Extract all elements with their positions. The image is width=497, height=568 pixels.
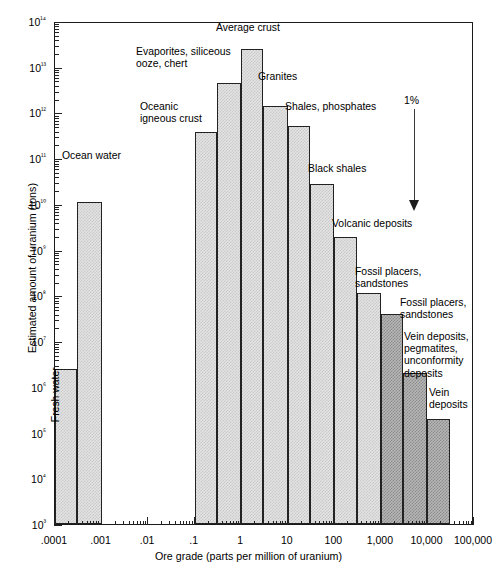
y-axis-minor-tick (54, 78, 59, 79)
bar-evaporites-siliceous (217, 83, 241, 524)
x-axis-label: 1,000 (367, 534, 393, 546)
x-axis-minor-tick (87, 521, 88, 526)
x-axis-minor-tick (419, 521, 420, 526)
x-axis-minor-tick (309, 521, 310, 526)
x-axis-minor-tick (449, 521, 450, 526)
x-axis-title: Ore grade (parts per million of uranium) (0, 550, 497, 562)
x-axis-label: .1 (189, 534, 198, 546)
y-axis-tick (54, 113, 62, 114)
x-axis-label: .01 (140, 534, 155, 546)
bar-annotation-granites: Granites (258, 71, 297, 83)
y-axis-minor-tick (54, 301, 59, 302)
x-axis-minor-tick (230, 521, 231, 526)
x-axis-minor-tick (133, 521, 134, 526)
x-axis-minor-tick (82, 521, 83, 526)
bar-annotation-volcanic-deposits: Volcanic deposits (332, 218, 412, 230)
y-axis-minor-tick (54, 223, 59, 224)
x-axis-minor-tick (222, 521, 223, 526)
x-axis-minor-tick (192, 521, 193, 526)
x-axis-minor-tick (115, 521, 116, 526)
y-axis-minor-tick (54, 92, 59, 93)
x-axis-label: 10,000 (410, 534, 442, 546)
x-axis-tick (54, 517, 55, 525)
bar-volcanic-deposits (334, 237, 356, 524)
x-axis-minor-tick (276, 521, 277, 526)
x-axis-minor-tick (145, 521, 146, 526)
x-axis-minor-tick (140, 521, 141, 526)
x-axis-minor-tick (90, 521, 91, 526)
x-axis-minor-tick (319, 521, 320, 526)
x-axis-minor-tick (175, 521, 176, 526)
y-axis-minor-tick (54, 173, 59, 174)
one-percent-annotation-label: 1% (404, 94, 419, 106)
x-axis-minor-tick (375, 521, 376, 526)
y-axis-minor-tick (54, 191, 59, 192)
x-axis-label: 100 (325, 534, 343, 546)
bar-vein (427, 419, 449, 524)
x-axis-minor-tick (208, 521, 209, 526)
y-axis-minor-tick (54, 169, 59, 170)
y-axis-minor-tick (54, 70, 59, 71)
x-axis-minor-tick (373, 521, 374, 526)
x-axis-minor-tick (394, 521, 395, 526)
y-axis-tick (54, 159, 62, 160)
x-axis-minor-tick (471, 521, 472, 526)
x-axis-minor-tick (273, 521, 274, 526)
x-axis-minor-tick (76, 521, 77, 526)
x-axis-minor-tick (280, 521, 281, 526)
y-axis-minor-tick (54, 121, 59, 122)
x-axis-minor-tick (402, 521, 403, 526)
x-axis-label: 1 (237, 534, 243, 546)
one-percent-arrow-head-icon (409, 200, 419, 211)
x-axis-minor-tick (93, 521, 94, 526)
y-axis-minor-tick (54, 253, 59, 254)
y-axis-minor-tick (54, 81, 59, 82)
bar-oceanic (195, 132, 217, 524)
x-axis-minor-tick (468, 521, 469, 526)
y-axis-minor-tick (54, 310, 59, 311)
x-axis-minor-tick (183, 521, 184, 526)
y-axis-minor-tick (54, 127, 59, 128)
x-axis-minor-tick (254, 521, 255, 526)
x-axis-tick (101, 517, 102, 525)
y-axis-minor-tick (54, 283, 59, 284)
y-axis-minor-tick (54, 132, 59, 133)
x-axis-minor-tick (129, 521, 130, 526)
bar-annotation-fresh-water: Fresh water (50, 367, 62, 422)
y-axis-minor-tick (54, 124, 59, 125)
y-axis-minor-tick (54, 356, 59, 357)
bar-ocean-water (77, 202, 101, 524)
y-axis-minor-tick (54, 303, 59, 304)
x-axis-minor-tick (315, 521, 316, 526)
x-axis-minor-tick (233, 521, 234, 526)
x-axis-minor-tick (137, 521, 138, 526)
x-axis-minor-tick (361, 521, 362, 526)
y-axis-minor-tick (54, 315, 59, 316)
x-axis-minor-tick (412, 521, 413, 526)
x-axis-minor-tick (370, 521, 371, 526)
y-axis-tick (54, 296, 62, 297)
y-axis-minor-tick (54, 352, 59, 353)
y-axis-minor-tick (54, 328, 59, 329)
uranium-ore-grade-chart: 10³10⁴10⁵10⁶10⁷10⁸10⁹10¹⁰10¹¹10¹²10¹³10¹… (0, 0, 497, 568)
bar-vein-deposits (403, 373, 427, 524)
y-axis-minor-tick (54, 209, 59, 210)
x-axis-minor-tick (323, 521, 324, 526)
bar-annotation-shales-phosphates: Shales, phosphates (285, 101, 376, 113)
bar-black-shales (310, 184, 334, 524)
y-axis-minor-tick (54, 36, 59, 37)
x-axis-minor-tick (326, 521, 327, 526)
y-axis-minor-tick (54, 137, 59, 138)
bar-annotation-ocean-water: Ocean water (62, 150, 121, 162)
bar-granites (263, 106, 287, 524)
bar-annotation-vein-pegmatites: Vein deposits, pegmatites, unconformity … (404, 331, 469, 380)
y-axis-minor-tick (54, 118, 59, 119)
y-axis-minor-tick (54, 100, 59, 101)
y-axis-minor-tick (54, 237, 59, 238)
x-axis-minor-tick (98, 521, 99, 526)
bar-annotation-black-shales: Black shales (308, 163, 366, 175)
x-axis-minor-tick (459, 521, 460, 526)
x-axis-minor-tick (282, 521, 283, 526)
x-axis-minor-tick (216, 521, 217, 526)
bar-annotation-vein-deposits: Vein deposits (429, 387, 468, 411)
